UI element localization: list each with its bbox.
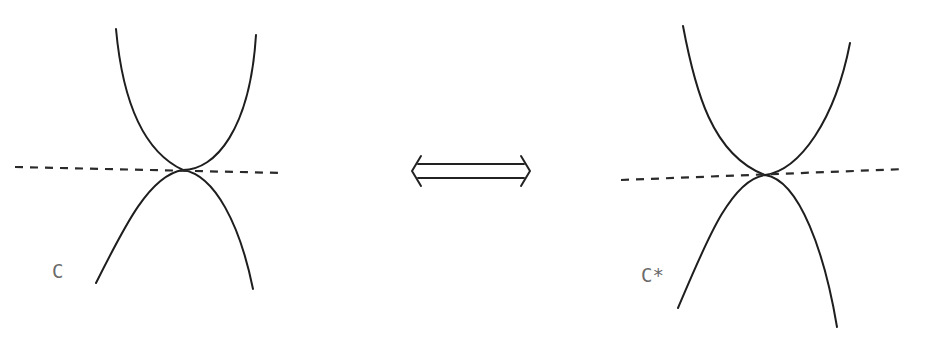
curve-label-c-star: C*	[641, 264, 664, 286]
right-lower-curve	[678, 175, 837, 327]
curve-label-c: C	[52, 260, 63, 282]
left-lower-curve	[96, 170, 253, 289]
right-tangent-dashed-line	[621, 169, 905, 180]
right-upper-curve	[683, 26, 850, 175]
left-tangent-dashed-line	[15, 167, 284, 173]
left-upper-curve	[116, 29, 256, 170]
left-panel	[15, 29, 284, 289]
diagram-canvas	[0, 0, 937, 342]
equivalence-double-arrow-icon	[412, 156, 530, 186]
